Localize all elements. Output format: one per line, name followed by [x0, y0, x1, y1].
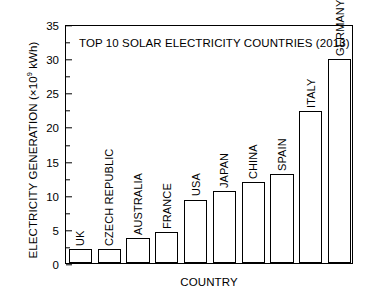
bar-group: FRANCE: [155, 26, 178, 263]
bar[interactable]: [184, 200, 207, 264]
y-axis-tick-label: 5: [53, 225, 66, 237]
bar-category-label: FRANCE: [161, 183, 173, 229]
bar-category-label: CZECH REPUBLIC: [103, 148, 115, 245]
bar-group: AUSTRALIA: [126, 26, 149, 263]
bar-group: GERMANY: [328, 26, 351, 263]
bar-group: UK: [69, 26, 92, 263]
bar-group: SPAIN: [270, 26, 293, 263]
y-axis-tick-label: 30: [46, 54, 66, 66]
bar-category-label: CHINA: [247, 145, 259, 180]
y-axis-title: ELECTRICITY GENERATION (×109 kWh): [27, 25, 39, 275]
bar[interactable]: [270, 174, 293, 263]
y-axis-tickmark: [66, 264, 72, 265]
x-axis-title: COUNTRY: [65, 276, 353, 288]
bar-category-label: JAPAN: [218, 152, 230, 187]
y-axis-title-text: ELECTRICITY GENERATION (×10: [27, 76, 39, 258]
bar-group: CHINA: [242, 26, 265, 263]
bar-category-label: USA: [190, 174, 202, 197]
bar[interactable]: [155, 232, 178, 263]
bar-group: ITALY: [299, 26, 322, 263]
bar[interactable]: [69, 249, 92, 263]
y-axis-title-exponent: 9: [25, 72, 34, 76]
bar-group: CZECH REPUBLIC: [98, 26, 121, 263]
bar-category-label: AUSTRALIA: [132, 173, 144, 235]
y-axis-tick-label: 35: [46, 20, 66, 32]
bar-category-label: ITALY: [305, 78, 317, 107]
bar[interactable]: [328, 59, 351, 263]
bar[interactable]: [98, 249, 121, 263]
y-axis-tick-label: 20: [46, 122, 66, 134]
bar-category-label: SPAIN: [276, 139, 288, 172]
y-axis-tick-label: 15: [46, 157, 66, 169]
bar-group: JAPAN: [213, 26, 236, 263]
bar[interactable]: [242, 182, 265, 263]
y-axis-tick-label: 0: [53, 259, 66, 271]
solar-electricity-bar-chart: ELECTRICITY GENERATION (×109 kWh) 051015…: [0, 0, 368, 306]
bar-group: USA: [184, 26, 207, 263]
y-axis-tick-label: 25: [46, 88, 66, 100]
bar[interactable]: [126, 238, 149, 263]
plot-area: 05101520253035 TOP 10 SOLAR ELECTRICITY …: [65, 25, 353, 264]
bar[interactable]: [213, 191, 236, 263]
bar-category-label: UK: [74, 231, 86, 246]
y-axis-tick-label: 10: [46, 191, 66, 203]
bar[interactable]: [299, 111, 322, 263]
y-axis-title-tail: kWh): [27, 42, 39, 73]
bars-layer: UKCZECH REPUBLICAUSTRALIAFRANCEUSAJAPANC…: [66, 26, 352, 263]
bar-category-label: GERMANY: [334, 0, 346, 56]
